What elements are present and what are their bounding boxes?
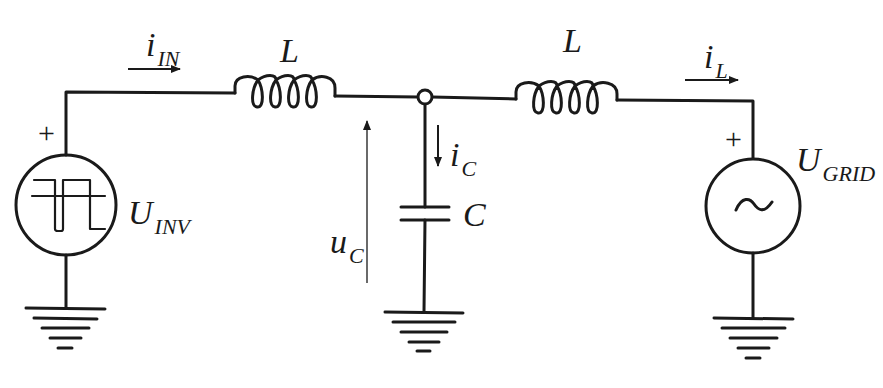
label-u-grid-sub: GRID	[823, 161, 876, 186]
label-c: C	[463, 198, 486, 232]
label-i-c: iC	[450, 138, 476, 172]
label-l1-main: L	[280, 32, 299, 69]
label-i-c-sub: C	[461, 156, 476, 181]
label-i-l-sub: L	[715, 58, 727, 83]
label-u-grid-main: U	[796, 141, 821, 178]
wire-capacitor-to-ground	[424, 220, 425, 312]
wire-inverter-to-l1	[66, 92, 235, 155]
label-u-grid: UGRID	[796, 143, 875, 177]
ground-2-icon	[385, 312, 463, 351]
label-l2-main: L	[563, 22, 582, 59]
label-i-in: iIN	[146, 28, 179, 62]
label-u-inv-main: U	[128, 194, 153, 231]
label-l1: L	[280, 34, 299, 68]
label-c-main: C	[463, 196, 486, 233]
label-i-in-sub: IN	[157, 46, 179, 71]
wire-junction-to-l2	[432, 97, 516, 99]
label-i-l-main: i	[704, 38, 713, 75]
grid-source-circle	[706, 159, 800, 253]
label-u-inv-sub: INV	[155, 214, 190, 239]
inverter-plus-sign: +	[38, 118, 55, 148]
inductor-1-coil	[235, 76, 335, 108]
ground-1-icon	[26, 308, 105, 348]
square-wave-icon	[34, 180, 105, 231]
ac-wave-icon	[736, 199, 772, 210]
wire-l1-to-junction	[335, 96, 418, 97]
label-u-c-sub: C	[349, 243, 364, 268]
inverter-source-circle	[16, 155, 116, 255]
inductor-2-coil	[516, 82, 617, 114]
label-u-inv: UINV	[128, 196, 190, 230]
label-u-c: uC	[330, 225, 364, 259]
junction-node	[418, 90, 432, 104]
ground-3-icon	[714, 318, 793, 358]
label-i-in-main: i	[146, 26, 155, 63]
label-i-c-main: i	[450, 136, 459, 173]
label-u-c-main: u	[330, 223, 347, 260]
label-i-l: iL	[704, 40, 728, 74]
grid-plus-sign: +	[725, 124, 742, 154]
label-l2: L	[563, 24, 582, 58]
